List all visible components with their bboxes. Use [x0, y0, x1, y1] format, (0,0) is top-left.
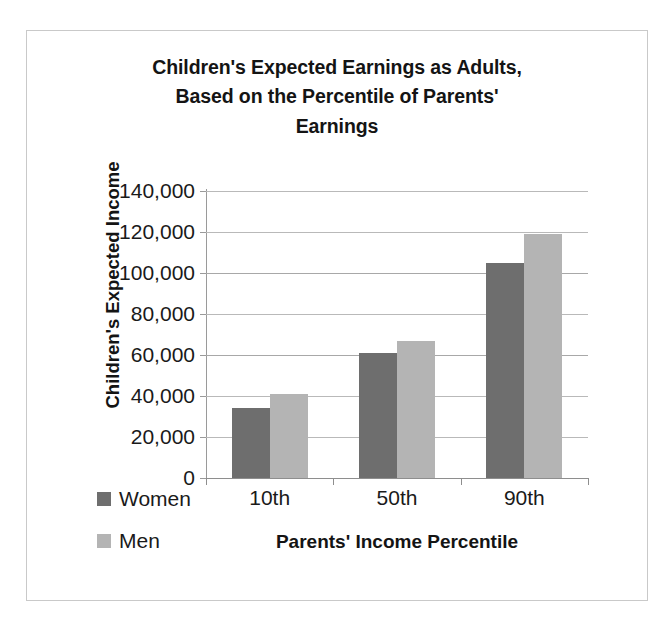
x-axis-category-50th: 50th — [333, 486, 460, 510]
bar-women-10th[interactable] — [232, 408, 270, 478]
x-axis-category-90th: 90th — [461, 486, 588, 510]
x-axis-category-labels: 10th50th90th — [206, 486, 588, 510]
plot-area: 140,000120,000100,00080,00060,00040,0002… — [206, 191, 588, 478]
chart-container: Children's Expected Earnings as Adults, … — [26, 30, 648, 601]
legend: WomenMen — [97, 487, 191, 571]
y-axis-tick-label: 140,000 — [65, 179, 195, 203]
y-axis-tick-label: 120,000 — [65, 220, 195, 244]
chart-title-line-2: Based on the Percentile of Parents' — [87, 82, 587, 111]
bar-men-10th[interactable] — [270, 394, 308, 478]
chart-title-line-3: Earnings — [87, 112, 587, 141]
bar-women-90th[interactable] — [486, 263, 524, 478]
bar-group — [206, 191, 333, 478]
bar-group — [461, 191, 588, 478]
y-axis-tick-label: 40,000 — [65, 384, 195, 408]
x-axis-tick — [333, 478, 334, 485]
chart-title-line-1: Children's Expected Earnings as Adults, — [87, 53, 587, 82]
chart-title: Children's Expected Earnings as Adults, … — [87, 53, 587, 141]
legend-item-women[interactable]: Women — [97, 487, 191, 511]
bar-women-50th[interactable] — [359, 353, 397, 478]
legend-swatch-men — [97, 534, 111, 548]
y-axis-tick-label: 60,000 — [65, 343, 195, 367]
legend-label-men: Men — [119, 529, 160, 553]
legend-item-men[interactable]: Men — [97, 529, 191, 553]
x-axis-title: Parents' Income Percentile — [206, 531, 588, 553]
legend-label-women: Women — [119, 487, 191, 511]
legend-swatch-women — [97, 492, 111, 506]
bar-group — [333, 191, 460, 478]
x-axis-tick — [206, 478, 207, 485]
y-axis-tick-label: 20,000 — [65, 425, 195, 449]
x-axis-tick — [461, 478, 462, 485]
x-axis-line — [205, 478, 588, 479]
x-axis-tick — [588, 478, 589, 485]
y-axis-tick-label: 80,000 — [65, 302, 195, 326]
x-axis-category-10th: 10th — [206, 486, 333, 510]
bar-men-50th[interactable] — [397, 341, 435, 478]
bar-groups — [206, 191, 588, 478]
y-axis-tick-label: 100,000 — [65, 261, 195, 285]
bar-men-90th[interactable] — [524, 234, 562, 478]
